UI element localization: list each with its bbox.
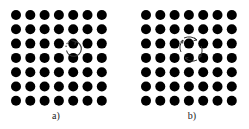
lattice-dot xyxy=(141,53,151,63)
lattice-dot xyxy=(213,67,223,77)
lattice-dot xyxy=(198,67,208,77)
lattice-dot xyxy=(155,67,165,77)
lattice-dot xyxy=(97,82,107,92)
lattice-dot xyxy=(141,67,151,77)
lattice-dot xyxy=(184,82,194,92)
lattice-dot xyxy=(213,39,223,49)
lattice-dot xyxy=(170,53,180,63)
lattice-dot xyxy=(68,82,78,92)
lattice-dot xyxy=(97,53,107,63)
lattice-dot xyxy=(11,96,21,106)
lattice-dot xyxy=(40,67,50,77)
lattice-dot xyxy=(170,67,180,77)
lattice-dot xyxy=(155,82,165,92)
lattice-dot xyxy=(184,39,194,49)
lattice-dot xyxy=(155,24,165,34)
lattice-dot xyxy=(213,10,223,20)
lattice-dot xyxy=(11,82,21,92)
lattice-dot xyxy=(170,82,180,92)
lattice-dot xyxy=(227,24,237,34)
lattice-dot xyxy=(54,67,64,77)
lattice-dot xyxy=(198,39,208,49)
lattice-dot xyxy=(25,67,35,77)
lattice-dot xyxy=(170,39,180,49)
lattice-dot xyxy=(170,24,180,34)
lattice-dot xyxy=(227,10,237,20)
lattice-dot xyxy=(198,24,208,34)
lattice-dot xyxy=(40,10,50,20)
lattice-dot xyxy=(97,67,107,77)
lattice-dot xyxy=(83,67,93,77)
caption-b: b) xyxy=(177,110,207,121)
panel-b: b) xyxy=(125,0,249,129)
lattice-dot xyxy=(97,24,107,34)
lattice-dot xyxy=(54,96,64,106)
lattice-dot xyxy=(25,96,35,106)
lattice-dot xyxy=(184,24,194,34)
lattice-dot xyxy=(11,10,21,20)
lattice-dot xyxy=(25,82,35,92)
lattice-dot xyxy=(227,39,237,49)
lattice-dot xyxy=(11,53,21,63)
lattice-dot xyxy=(184,67,194,77)
lattice-dot xyxy=(213,24,223,34)
lattice-dot xyxy=(227,82,237,92)
lattice-dot xyxy=(25,39,35,49)
lattice-dot xyxy=(54,53,64,63)
lattice-dot xyxy=(170,10,180,20)
lattice-dot xyxy=(54,24,64,34)
lattice-dot xyxy=(141,82,151,92)
lattice-dot xyxy=(83,82,93,92)
lattice-dot xyxy=(40,96,50,106)
lattice-dot xyxy=(83,24,93,34)
lattice-dot xyxy=(155,96,165,106)
lattice-dot xyxy=(11,24,21,34)
lattice-dot xyxy=(68,67,78,77)
lattice-dot xyxy=(25,24,35,34)
lattice-dot xyxy=(11,39,21,49)
lattice-dot xyxy=(155,53,165,63)
lattice-dot xyxy=(83,10,93,20)
lattice-dot xyxy=(97,10,107,20)
lattice-dot xyxy=(54,10,64,20)
lattice-dot xyxy=(68,39,78,49)
caption-a: a) xyxy=(41,110,71,121)
lattice-dot xyxy=(68,96,78,106)
lattice-dot xyxy=(68,10,78,20)
lattice-dot xyxy=(198,82,208,92)
lattice-dot xyxy=(198,10,208,20)
lattice-dot xyxy=(155,10,165,20)
lattice-dot xyxy=(184,10,194,20)
lattice-dot xyxy=(40,82,50,92)
lattice-dot xyxy=(40,53,50,63)
lattice-dot xyxy=(83,53,93,63)
lattice-dot xyxy=(68,24,78,34)
lattice-dot xyxy=(25,53,35,63)
lattice-dot xyxy=(54,39,64,49)
lattice-dot xyxy=(97,96,107,106)
lattice-dot xyxy=(227,53,237,63)
lattice-dot xyxy=(40,39,50,49)
lattice-dot xyxy=(213,96,223,106)
panel-a: a) xyxy=(0,0,124,129)
lattice-dot xyxy=(170,96,180,106)
lattice-dot xyxy=(227,96,237,106)
lattice-dot xyxy=(54,82,64,92)
lattice-dot xyxy=(213,82,223,92)
lattice-dot xyxy=(83,96,93,106)
lattice-dot xyxy=(141,96,151,106)
lattice-dot xyxy=(83,39,93,49)
lattice-dot xyxy=(227,67,237,77)
lattice-dot xyxy=(155,39,165,49)
lattice-dot xyxy=(11,67,21,77)
lattice-dot xyxy=(198,96,208,106)
lattice-dot xyxy=(184,96,194,106)
lattice-dot xyxy=(141,10,151,20)
lattice-dot xyxy=(25,10,35,20)
lattice-dot xyxy=(97,39,107,49)
lattice-dot xyxy=(40,24,50,34)
lattice-dot xyxy=(141,24,151,34)
lattice-dot xyxy=(141,39,151,49)
lattice-dot xyxy=(213,53,223,63)
lattice-dot xyxy=(68,53,78,63)
